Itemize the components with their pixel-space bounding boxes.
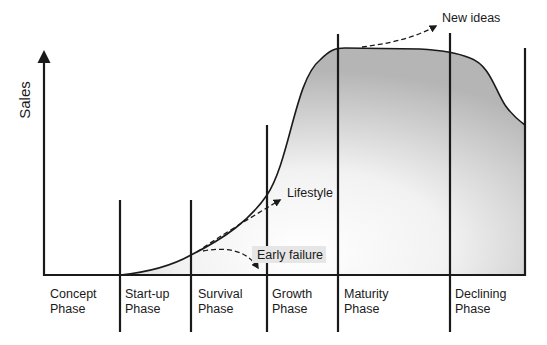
- phase-label-survival: Survival: [198, 287, 242, 301]
- phase-label-concept-2: Phase: [50, 302, 85, 316]
- phase-label-startup: Start-up: [125, 287, 170, 301]
- lifestyle-label: Lifestyle: [287, 186, 333, 200]
- phase-label-startup-2: Phase: [125, 302, 160, 316]
- phase-label-maturity: Maturity: [344, 287, 389, 301]
- y-axis-arrow-icon: [38, 50, 51, 63]
- phase-label-declining: Declining: [455, 287, 506, 301]
- phase-label-concept: Concept: [50, 287, 97, 301]
- phase-label-declining-2: Phase: [455, 302, 490, 316]
- business-lifecycle-diagram: Sales New ideas Lifestyle Early failure …: [0, 0, 547, 345]
- new-ideas-arrow: [362, 26, 436, 47]
- sales-area-fill: [120, 48, 525, 275]
- phase-label-maturity-2: Phase: [344, 302, 379, 316]
- phase-label-survival-2: Phase: [198, 302, 233, 316]
- phase-label-growth-2: Phase: [272, 302, 307, 316]
- early-failure-label: Early failure: [257, 248, 323, 262]
- phase-label-growth: Growth: [272, 287, 312, 301]
- new-ideas-label: New ideas: [442, 11, 500, 25]
- y-axis-label: Sales: [16, 81, 33, 119]
